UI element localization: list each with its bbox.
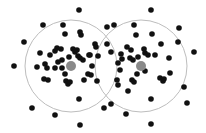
data-point — [108, 49, 114, 55]
data-point — [45, 77, 51, 83]
data-point — [44, 65, 50, 71]
data-point — [161, 76, 167, 82]
data-point — [111, 22, 117, 28]
data-point — [76, 7, 82, 13]
data-point — [152, 52, 158, 58]
data-point — [59, 65, 65, 71]
data-point — [133, 32, 139, 38]
center-point — [66, 61, 76, 71]
data-point — [149, 31, 155, 37]
neighborhood-diagram — [0, 0, 206, 133]
data-point — [47, 52, 53, 58]
data-point — [123, 111, 129, 117]
data-point — [86, 52, 92, 58]
data-point — [115, 82, 121, 88]
data-point — [148, 96, 154, 102]
data-point — [76, 96, 82, 102]
data-point — [93, 44, 99, 50]
data-point — [125, 88, 131, 94]
data-point — [119, 56, 125, 62]
data-point — [11, 63, 17, 69]
data-point — [108, 101, 114, 107]
data-point — [81, 77, 87, 83]
data-point — [145, 52, 151, 58]
data-point — [55, 59, 61, 65]
data-point — [148, 7, 154, 13]
data-point — [60, 22, 66, 28]
data-point — [34, 64, 40, 70]
data-point — [77, 29, 83, 35]
center-point — [136, 61, 146, 71]
data-point — [21, 39, 27, 45]
data-point — [141, 46, 147, 52]
data-point — [176, 25, 182, 31]
data-point — [181, 84, 187, 90]
data-point — [29, 105, 35, 111]
data-point — [80, 57, 86, 63]
data-point — [148, 121, 154, 127]
data-point — [135, 54, 141, 60]
data-point — [114, 77, 120, 83]
data-point — [52, 112, 58, 118]
data-point — [167, 70, 173, 76]
data-point — [66, 54, 72, 60]
data-point — [117, 67, 123, 73]
data-point — [52, 48, 58, 54]
data-point — [77, 122, 83, 128]
data-point — [40, 22, 46, 28]
data-point — [62, 31, 68, 37]
data-point — [115, 60, 121, 66]
data-point — [62, 71, 68, 77]
data-point — [134, 71, 140, 77]
data-point — [131, 22, 137, 28]
diagram-canvas — [0, 0, 206, 133]
data-point — [88, 72, 94, 78]
data-point — [101, 105, 107, 111]
data-point — [158, 41, 164, 47]
data-point — [58, 46, 64, 52]
data-point — [67, 79, 73, 85]
data-point — [104, 41, 110, 47]
data-point — [166, 55, 172, 61]
data-point — [94, 78, 100, 84]
data-point — [89, 63, 95, 69]
data-point — [95, 53, 101, 59]
data-point — [184, 100, 190, 106]
data-point — [104, 24, 110, 30]
data-point — [37, 50, 43, 56]
data-point — [191, 49, 197, 55]
data-point — [131, 79, 137, 85]
data-point — [118, 51, 124, 57]
data-point — [130, 57, 136, 63]
data-point — [52, 65, 58, 71]
data-point — [128, 47, 134, 53]
data-point — [175, 39, 181, 45]
